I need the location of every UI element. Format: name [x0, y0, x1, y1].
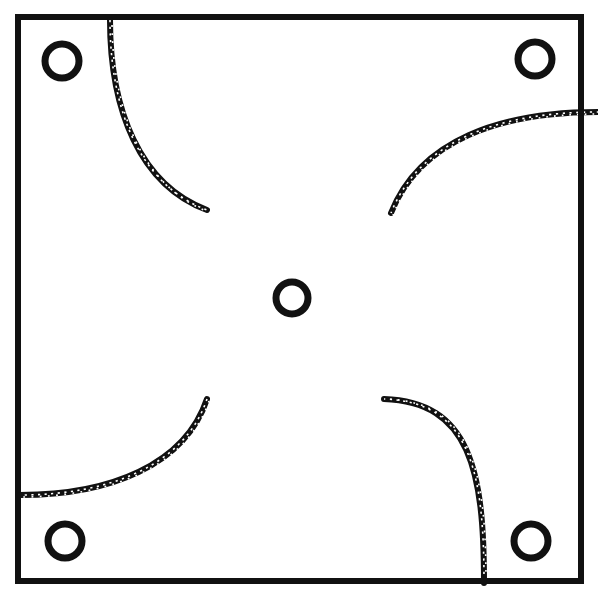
figure-canvas [0, 0, 598, 595]
technical-drawing [0, 0, 598, 595]
drawing-background [0, 0, 598, 595]
